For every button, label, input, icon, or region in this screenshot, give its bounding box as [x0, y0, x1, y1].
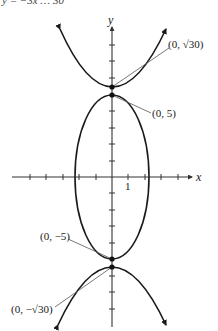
point-neg-sqrt30 — [109, 264, 114, 269]
label-five: (0, 5) — [152, 108, 176, 119]
x-tick-label-1: 1 — [125, 181, 131, 192]
x-axis-label: x — [196, 171, 201, 183]
point-neg5 — [109, 256, 114, 261]
point-5 — [109, 92, 114, 97]
y-axis-label: y — [108, 14, 113, 26]
point-sqrt30 — [109, 84, 114, 89]
label-neg-sqrt30: (0, −√30) — [11, 304, 53, 315]
label-neg-five: (0, −5) — [40, 231, 70, 242]
label-sqrt30: (0, √30) — [168, 39, 203, 50]
x-axis — [12, 174, 192, 180]
